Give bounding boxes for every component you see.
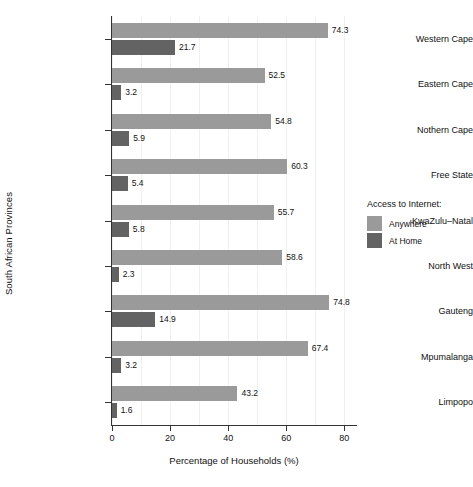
bar-value-label: 5.4 xyxy=(132,176,144,191)
bar xyxy=(112,267,119,282)
x-axis-title: Percentage of Households (%) xyxy=(112,455,356,466)
bar xyxy=(112,312,155,327)
x-tick-mark xyxy=(286,426,287,431)
bar-value-label: 21.7 xyxy=(179,40,196,55)
y-tick-mark xyxy=(105,266,111,267)
bar xyxy=(112,131,129,146)
y-tick-mark xyxy=(105,39,111,40)
bar-value-label: 55.7 xyxy=(278,205,295,220)
bar-value-label: 60.3 xyxy=(291,159,308,174)
bar xyxy=(112,295,329,310)
bar xyxy=(112,250,282,265)
bar xyxy=(112,341,308,356)
bar xyxy=(112,403,117,418)
bar-value-label: 43.2 xyxy=(241,386,258,401)
bar-value-label: 74.3 xyxy=(332,23,349,38)
bar-value-label: 14.9 xyxy=(159,312,176,327)
y-tick-label: Nothern Cape xyxy=(368,125,473,135)
bar-value-label: 54.8 xyxy=(275,114,292,129)
bar-value-label: 52.5 xyxy=(269,68,286,83)
x-tick-label: 0 xyxy=(109,433,114,443)
bar-value-label: 5.8 xyxy=(133,222,145,237)
bar xyxy=(112,358,121,373)
y-tick-mark xyxy=(105,221,111,222)
legend-swatch xyxy=(367,216,382,231)
bar-value-label: 67.4 xyxy=(312,341,329,356)
x-tick-label: 60 xyxy=(281,433,291,443)
bar xyxy=(112,68,265,83)
y-tick-mark xyxy=(105,130,111,131)
x-tick-label: 80 xyxy=(339,433,349,443)
gridline xyxy=(286,16,287,425)
y-axis-title: South African Provinces xyxy=(0,0,16,487)
bar-value-label: 74.8 xyxy=(333,295,350,310)
bar-value-label: 3.2 xyxy=(125,358,137,373)
bar xyxy=(112,176,128,191)
y-tick-label: Limpopo xyxy=(368,397,473,407)
y-tick-mark xyxy=(105,84,111,85)
y-tick-label: Gauteng xyxy=(368,306,473,316)
x-axis-line xyxy=(112,425,357,426)
legend-item[interactable]: Anywhere xyxy=(367,215,467,232)
y-tick-mark xyxy=(105,357,111,358)
bar xyxy=(112,222,129,237)
bar-chart: South African Provinces Percentage of Ho… xyxy=(0,0,473,487)
legend-item[interactable]: At Home xyxy=(367,232,467,249)
y-tick-label: Mpumalanga xyxy=(368,352,473,362)
gridline xyxy=(344,16,345,425)
legend-title: Access to Internet: xyxy=(367,199,467,209)
legend: Access to Internet: AnywhereAt Home xyxy=(367,199,467,249)
y-tick-label: Free State xyxy=(368,170,473,180)
bar xyxy=(112,114,271,129)
legend-label: Anywhere xyxy=(389,219,427,229)
x-tick-mark xyxy=(228,426,229,431)
legend-label: At Home xyxy=(389,236,422,246)
gridline xyxy=(315,16,316,425)
bar xyxy=(112,85,121,100)
y-tick-mark xyxy=(105,402,111,403)
y-tick-label: North West xyxy=(368,261,473,271)
y-tick-mark xyxy=(105,311,111,312)
x-tick-mark xyxy=(112,426,113,431)
x-tick-label: 40 xyxy=(223,433,233,443)
bar xyxy=(112,386,237,401)
bar-value-label: 3.2 xyxy=(125,85,137,100)
x-tick-label: 20 xyxy=(165,433,175,443)
plot-panel: 74.321.752.53.254.85.960.35.455.75.858.6… xyxy=(112,16,356,425)
bar xyxy=(112,159,287,174)
y-tick-mark xyxy=(105,175,111,176)
bar xyxy=(112,40,175,55)
y-tick-label: Eastern Cape xyxy=(368,79,473,89)
bar xyxy=(112,23,328,38)
bar-value-label: 1.6 xyxy=(121,403,133,418)
x-tick-mark xyxy=(344,426,345,431)
legend-items: AnywhereAt Home xyxy=(367,215,467,249)
bar-value-label: 58.6 xyxy=(286,250,303,265)
bar xyxy=(112,205,274,220)
y-tick-label: Western Cape xyxy=(368,34,473,44)
x-tick-mark xyxy=(170,426,171,431)
bar-value-label: 2.3 xyxy=(123,267,135,282)
legend-swatch xyxy=(367,233,382,248)
bar-value-label: 5.9 xyxy=(133,131,145,146)
